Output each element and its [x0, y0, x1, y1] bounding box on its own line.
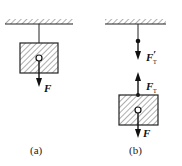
force-arrow-FT-prime: [135, 43, 141, 60]
ceiling-a: [5, 19, 73, 24]
force-label-F-a: F: [43, 82, 52, 94]
force-label-F-b: F: [142, 127, 151, 139]
caption-b: (b): [129, 144, 142, 157]
center-of-mass-b: [135, 107, 141, 113]
caption-a: (a): [30, 144, 43, 157]
panel-a: F (a): [5, 19, 73, 157]
center-of-mass-a: [36, 55, 42, 61]
ceiling-b: [105, 19, 166, 24]
free-body-diagram: F (a) F ′ T F T F (b): [0, 0, 182, 166]
rope-point-b: [136, 39, 141, 44]
force-label-FT-subscript: T: [153, 88, 157, 94]
force-label-FT-prime-subscript: T: [153, 59, 157, 65]
panel-b: F ′ T F T F (b): [105, 19, 166, 157]
force-arrow-FT: [135, 72, 141, 95]
